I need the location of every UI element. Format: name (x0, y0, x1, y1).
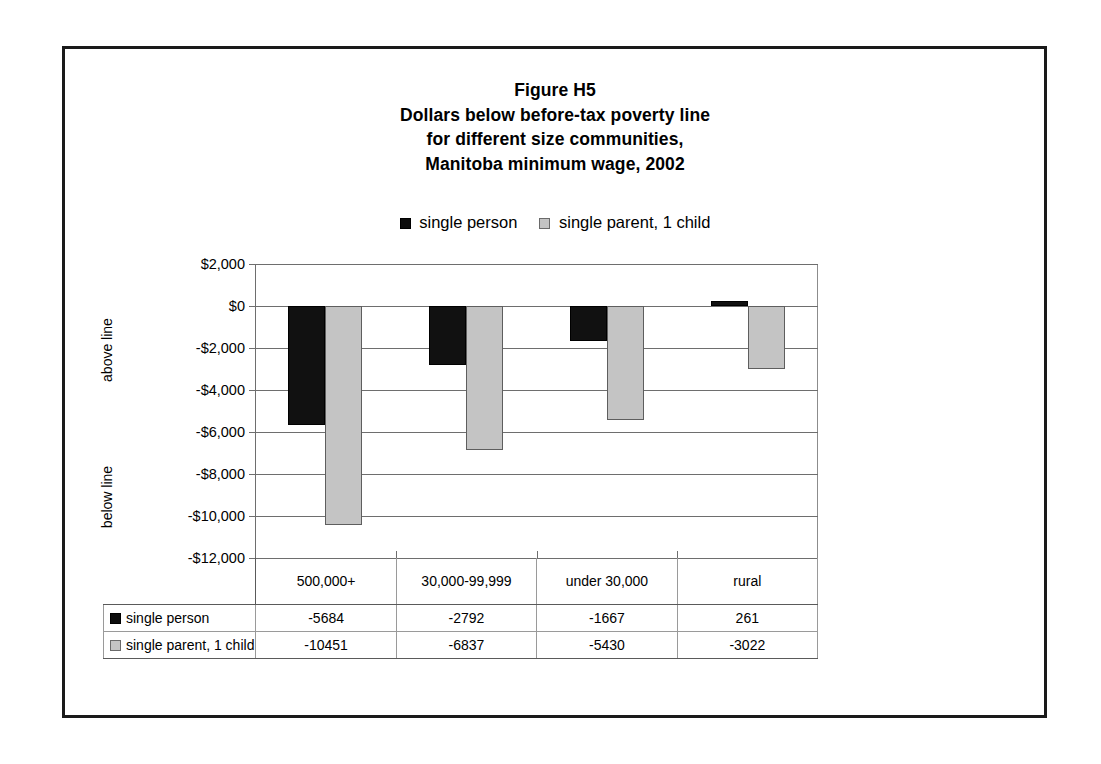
chart-plot-area: $2,000$0-$2,000-$4,000-$6,000-$8,000-$10… (255, 264, 818, 558)
y-axis-tick (249, 348, 255, 349)
legend-item-single-person: single person (400, 212, 518, 232)
figure-title-block: Figure H5 Dollars below before-tax pover… (140, 78, 970, 176)
table-column-header-3: rural (677, 558, 817, 605)
page-title-line-2: Dollars below before-tax poverty line (140, 103, 970, 128)
category-divider (537, 551, 538, 558)
y-axis-tick (249, 432, 255, 433)
axis-caption-below-line: below line (99, 447, 117, 547)
bar-single-parent-2 (607, 306, 644, 420)
table-row: single person-5684-2792-1667261 (104, 605, 818, 632)
bar-single-person-1 (429, 306, 466, 365)
y-axis-tick-label: -$6,000 (196, 424, 245, 440)
legend-label-single-person: single person (419, 212, 517, 232)
legend-label-single-parent: single parent, 1 child (559, 212, 710, 232)
y-axis-tick (249, 516, 255, 517)
gray-square-icon (539, 218, 550, 229)
y-axis-tick-label: -$8,000 (196, 466, 245, 482)
table-cell-r0-c0: -5684 (256, 605, 396, 632)
black-square-icon (400, 218, 411, 229)
table-cell-r1-c0: -10451 (256, 632, 396, 659)
chart-legend: single person single parent, 1 child (140, 212, 970, 232)
table-corner-cell (104, 558, 256, 605)
gray-square-icon (110, 640, 121, 651)
gridline (255, 264, 818, 265)
y-axis-tick-label: $2,000 (201, 256, 245, 272)
chart-data-table: 500,000+30,000-99,999under 30,000ruralsi… (103, 558, 818, 659)
y-axis-tick (249, 306, 255, 307)
y-axis-tick-label: -$2,000 (196, 340, 245, 356)
black-square-icon (110, 613, 121, 624)
figure-page: Figure H5 Dollars below before-tax pover… (0, 0, 1101, 764)
table-cell-r1-c2: -5430 (537, 632, 677, 659)
table-column-header-2: under 30,000 (537, 558, 677, 605)
table-row-label-1: single parent, 1 child (104, 632, 256, 659)
table-column-header-1: 30,000-99,999 (396, 558, 536, 605)
y-axis-tick-label: $0 (229, 298, 245, 314)
table-row-label-0: single person (104, 605, 256, 632)
y-axis-tick-label: -$4,000 (196, 382, 245, 398)
bar-single-person-2 (570, 306, 607, 341)
table-header-row: 500,000+30,000-99,999under 30,000rural (104, 558, 818, 605)
bar-single-person-3 (711, 301, 748, 306)
category-divider (677, 551, 678, 558)
table-cell-r0-c1: -2792 (396, 605, 536, 632)
page-title-line-4: Manitoba minimum wage, 2002 (140, 152, 970, 177)
legend-item-single-parent: single parent, 1 child (539, 212, 710, 232)
page-title-line-3: for different size communities, (140, 127, 970, 152)
page-title-line-1: Figure H5 (140, 78, 970, 103)
table-cell-r1-c1: -6837 (396, 632, 536, 659)
y-axis-tick (249, 264, 255, 265)
table-cell-r0-c2: -1667 (537, 605, 677, 632)
category-divider (396, 551, 397, 558)
table-row-label-text: single parent, 1 child (126, 637, 254, 653)
bar-single-person-0 (288, 306, 325, 425)
bar-single-parent-0 (325, 306, 362, 525)
y-axis-tick (249, 390, 255, 391)
axis-caption-above-line: above line (99, 300, 117, 400)
table-cell-r1-c3: -3022 (677, 632, 817, 659)
table-cell-r0-c3: 261 (677, 605, 817, 632)
y-axis-tick (249, 474, 255, 475)
y-axis-tick-label: -$10,000 (188, 508, 245, 524)
table-column-header-0: 500,000+ (256, 558, 396, 605)
table-row: single parent, 1 child-10451-6837-5430-3… (104, 632, 818, 659)
bar-single-parent-3 (748, 306, 785, 369)
bar-single-parent-1 (466, 306, 503, 450)
table-row-label-text: single person (126, 610, 209, 626)
